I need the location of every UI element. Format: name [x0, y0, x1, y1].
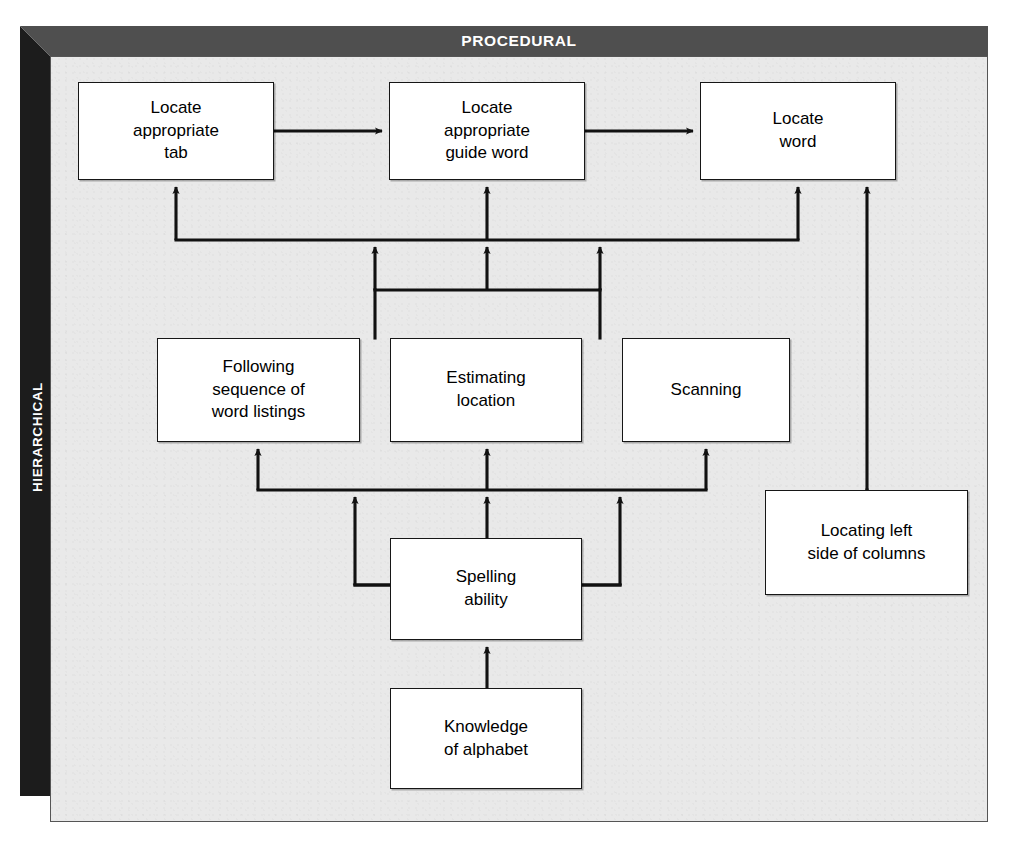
node-label: Knowledgeof alphabet [438, 716, 534, 762]
hierarchical-band-label: HIERARCHICAL [23, 237, 53, 637]
node-label: Locateappropriatetab [127, 97, 225, 165]
node-label: Followingsequence ofword listings [206, 356, 312, 424]
node-locate-appropriate-tab[interactable]: Locateappropriatetab [78, 82, 274, 180]
node-knowledge-of-alphabet[interactable]: Knowledgeof alphabet [390, 688, 582, 789]
diagram-canvas: PROCEDURAL HIERARCHICAL [0, 0, 1010, 850]
node-label: Locating leftside of columns [801, 520, 931, 566]
node-label: Locateappropriateguide word [438, 97, 536, 165]
node-label: Locateword [766, 108, 829, 154]
procedural-band-label: PROCEDURAL [50, 26, 988, 56]
node-locate-appropriate-guide-word[interactable]: Locateappropriateguide word [389, 82, 585, 180]
node-following-sequence-of-word-listings[interactable]: Followingsequence ofword listings [157, 338, 360, 442]
node-locating-left-side-of-columns[interactable]: Locating leftside of columns [765, 490, 968, 595]
node-locate-word[interactable]: Locateword [700, 82, 896, 180]
node-label: Spellingability [450, 566, 523, 612]
node-label: Scanning [665, 379, 748, 402]
node-label: Estimatinglocation [440, 367, 531, 413]
node-scanning[interactable]: Scanning [622, 338, 790, 442]
node-spelling-ability[interactable]: Spellingability [390, 538, 582, 640]
node-estimating-location[interactable]: Estimatinglocation [390, 338, 582, 442]
